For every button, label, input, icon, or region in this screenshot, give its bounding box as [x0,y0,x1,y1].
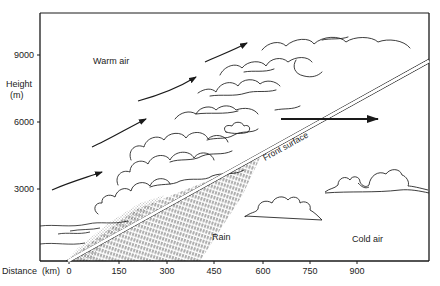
flow-arrow-icon [92,119,146,147]
y-tick-3000: 3000 [0,184,34,194]
warm-air-flow-arrows [52,42,247,190]
y-tick-9000: 9000 [0,50,34,60]
cold-air-label: Cold air [352,234,383,244]
x-tick-750: 750 [298,266,322,276]
y-axis-title: Height [6,79,32,89]
x-tick-600: 600 [251,266,275,276]
y-axis-unit: (m) [10,90,24,100]
flow-arrow-icon [52,172,102,190]
x-tick-450: 450 [202,266,226,276]
flow-arrow-icon [164,42,206,60]
front-surface-label: Front surface [261,130,310,163]
warm-air-label: Warm air [93,56,129,66]
x-tick-0: 0 [57,266,81,276]
x-axis-title: Distance [2,266,37,276]
x-tick-150: 150 [107,266,131,276]
x-tick-900: 900 [345,266,369,276]
flow-arrow-icon [205,43,247,62]
flow-arrow-icon [138,77,196,101]
rain-label: Rain [212,232,231,242]
cold-air-clouds [245,170,429,220]
plot-frame [40,13,429,261]
frontal-clouds [95,37,410,214]
y-tick-6000: 6000 [0,117,34,127]
x-tick-300: 300 [155,266,179,276]
